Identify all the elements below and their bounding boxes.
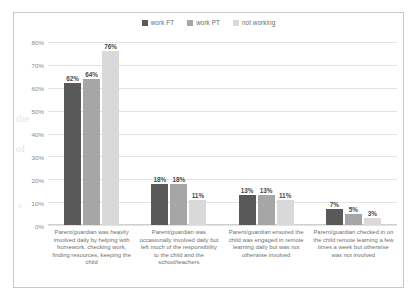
bar-group: 7%5%3% <box>310 42 397 225</box>
legend-label: not working <box>242 19 275 26</box>
bar-slot: 18% <box>151 42 168 225</box>
bar-work-ft[interactable]: 13% <box>239 195 256 225</box>
bar-not-working[interactable]: 76% <box>102 51 119 225</box>
bar-slot: 3% <box>364 42 381 225</box>
bar-slot: 7% <box>326 42 343 225</box>
legend-swatch-icon <box>187 20 193 26</box>
bar-groups: 62%64%76%18%18%11%13%13%11%7%5%3% <box>48 42 397 225</box>
bar-work-ft[interactable]: 18% <box>151 184 168 225</box>
bar-value-label: 76% <box>104 43 117 50</box>
bar-work-pt[interactable]: 64% <box>83 79 100 225</box>
bar-value-label: 18% <box>172 176 185 183</box>
plot-area: 80%70%60%50%40%30%20%10%0% 62%64%76%18%1… <box>48 42 397 225</box>
bar-not-working[interactable]: 3% <box>364 218 381 225</box>
bar-slot: 64% <box>83 42 100 225</box>
y-axis-tick-label: 80% <box>32 39 44 46</box>
y-axis-tick-label: 40% <box>32 131 44 138</box>
bar-group: 13%13%11% <box>223 42 310 225</box>
y-axis-tick-label: 70% <box>32 62 44 69</box>
bar-not-working[interactable]: 11% <box>189 200 206 225</box>
bar-slot: 13% <box>258 42 275 225</box>
bar-slot: 76% <box>102 42 119 225</box>
bar-slot: 5% <box>345 42 362 225</box>
grid-line: 0% <box>48 225 397 226</box>
legend-label: work PT <box>196 19 220 26</box>
bar-work-ft[interactable]: 7% <box>326 209 343 225</box>
bar-slot: 18% <box>170 42 187 225</box>
bar-group: 62%64%76% <box>48 42 135 225</box>
legend-item-not-working[interactable]: not working <box>233 19 275 26</box>
bar-value-label: 11% <box>279 192 291 199</box>
y-axis-tick-label: 0% <box>35 223 44 230</box>
category-labels: Parent/guardian was heavily involved dai… <box>48 229 397 291</box>
bar-work-ft[interactable]: 62% <box>64 83 81 225</box>
bar-value-label: 5% <box>349 206 358 213</box>
bar-slot: 13% <box>239 42 256 225</box>
y-axis-tick-label: 20% <box>32 177 44 184</box>
category-label: Parent/guardian was heavily involved dai… <box>48 229 135 291</box>
bar-work-pt[interactable]: 5% <box>345 214 362 225</box>
bar-slot: 11% <box>277 42 294 225</box>
y-axis-tick-label: 30% <box>32 154 44 161</box>
bar-slot: 62% <box>64 42 81 225</box>
bar-group: 18%18%11% <box>135 42 222 225</box>
bar-value-label: 11% <box>192 192 204 199</box>
bar-work-pt[interactable]: 18% <box>170 184 187 225</box>
chart-legend: work FTwork PTnot working <box>14 19 403 26</box>
legend-item-work-pt[interactable]: work PT <box>187 19 220 26</box>
legend-swatch-icon <box>233 20 239 26</box>
bar-value-label: 62% <box>66 75 79 82</box>
bar-value-label: 7% <box>330 201 339 208</box>
legend-label: work FT <box>151 19 174 26</box>
y-axis-tick-label: 50% <box>32 108 44 115</box>
bar-value-label: 18% <box>153 176 166 183</box>
bar-work-pt[interactable]: 13% <box>258 195 275 225</box>
category-label: Parent/guardian was occasionally involve… <box>135 229 222 291</box>
bar-slot: 11% <box>189 42 206 225</box>
bar-value-label: 13% <box>260 187 273 194</box>
bar-not-working[interactable]: 11% <box>277 200 294 225</box>
category-label: Parent/guardian ensured the child was en… <box>223 229 310 291</box>
legend-swatch-icon <box>142 20 148 26</box>
category-label: Parent/guardian checked in on the child … <box>310 229 397 291</box>
chart-container: work FTwork PTnot working 80%70%60%50%40… <box>13 12 404 288</box>
bar-value-label: 64% <box>85 71 98 78</box>
bar-value-label: 13% <box>241 187 254 194</box>
y-axis-tick-label: 60% <box>32 85 44 92</box>
bar-value-label: 3% <box>368 210 377 217</box>
y-axis-tick-label: 10% <box>32 200 44 207</box>
legend-item-work-ft[interactable]: work FT <box>142 19 174 26</box>
